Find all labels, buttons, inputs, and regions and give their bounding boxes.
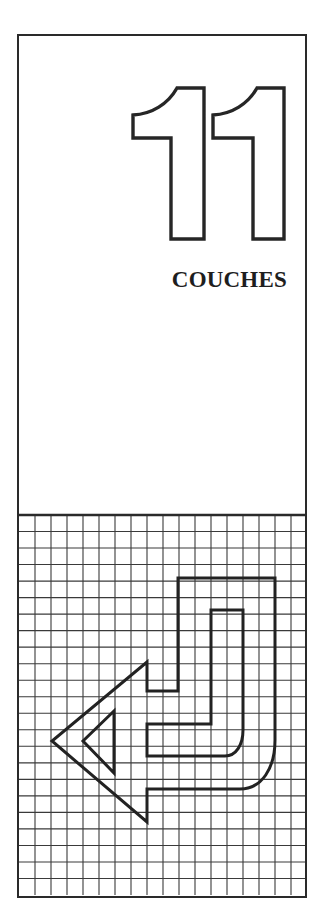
chapter-number-icon [133, 88, 284, 239]
chapter-page: COUCHES [0, 0, 328, 924]
digit-one-outline-second [213, 88, 284, 239]
chapter-title: COUCHES [172, 268, 287, 291]
chapter-artwork [0, 0, 328, 924]
digit-one-outline-first [133, 88, 204, 239]
graph-paper-grid [19, 515, 305, 895]
